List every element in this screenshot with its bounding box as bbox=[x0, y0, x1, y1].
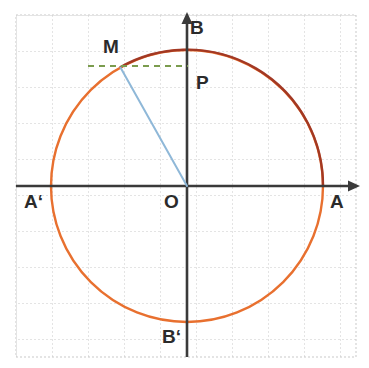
unit-circle-figure: B P M A A‘ O B‘ bbox=[0, 0, 369, 368]
label-point-m: M bbox=[103, 37, 119, 56]
label-point-o: O bbox=[164, 192, 179, 211]
label-point-b-prime: B‘ bbox=[162, 327, 181, 346]
label-point-p: P bbox=[196, 73, 209, 92]
diagram-canvas bbox=[0, 0, 369, 368]
label-point-a: A bbox=[330, 192, 344, 211]
label-point-b: B bbox=[190, 18, 204, 37]
label-point-a-prime: A‘ bbox=[24, 192, 43, 211]
